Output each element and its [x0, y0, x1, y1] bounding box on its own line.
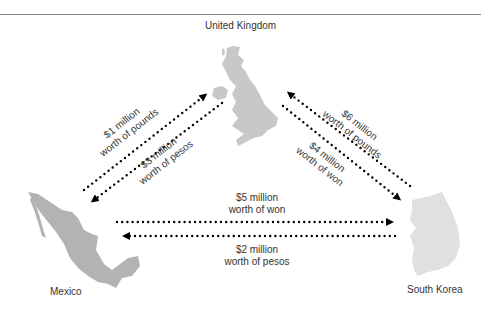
flow-label-mx-to-sk: $5 million worth of won: [212, 192, 302, 216]
flow-label-sk-to-mx: $2 million worth of pesos: [212, 244, 302, 268]
flow-currency: worth of pesos: [212, 256, 302, 268]
flow-amount: $2 million: [212, 244, 302, 256]
label-south-korea: South Korea: [407, 284, 463, 295]
label-united-kingdom: United Kingdom: [205, 20, 276, 31]
flow-amount: $5 million: [212, 192, 302, 204]
south-korea-map-icon: [410, 192, 460, 276]
uk-map-icon: [212, 46, 278, 146]
flow-currency: worth of won: [212, 204, 302, 216]
mexico-map-icon: [28, 192, 140, 288]
label-mexico: Mexico: [50, 286, 82, 297]
